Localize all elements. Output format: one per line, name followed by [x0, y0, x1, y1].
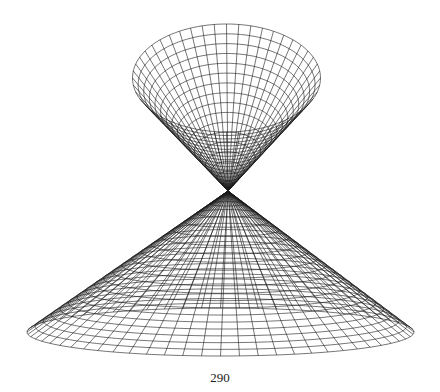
meridian-line: [228, 57, 313, 191]
meridian-line: [228, 40, 293, 191]
meridian-line: [60, 191, 228, 319]
meridian-line: [228, 191, 391, 343]
meridian-line: [136, 92, 228, 191]
page-number: 290: [0, 370, 440, 386]
meridian-line: [228, 31, 274, 191]
meridian-line: [133, 71, 228, 191]
double-cone-figure: [0, 0, 440, 392]
meridian-line: [191, 28, 228, 191]
meridian-line: [228, 191, 381, 319]
meridian-line: [228, 191, 399, 323]
meridian-line: [228, 191, 370, 317]
upper-cone-wireframe: [133, 24, 321, 191]
meridian-line: [42, 191, 228, 323]
meridian-line: [146, 191, 228, 354]
lower-cone-wireframe: [27, 191, 414, 356]
meridian-line: [228, 191, 239, 356]
meridian-line: [145, 51, 228, 191]
meridian-line: [228, 191, 413, 330]
meridian-line: [160, 40, 228, 191]
meridian-line: [228, 116, 293, 191]
meridian-line: [228, 71, 320, 191]
meridian-line: [228, 111, 301, 191]
meridian-line: [140, 57, 228, 191]
meridian-line: [133, 78, 229, 191]
meridian-line: [228, 51, 308, 191]
meridian-line: [228, 191, 258, 308]
